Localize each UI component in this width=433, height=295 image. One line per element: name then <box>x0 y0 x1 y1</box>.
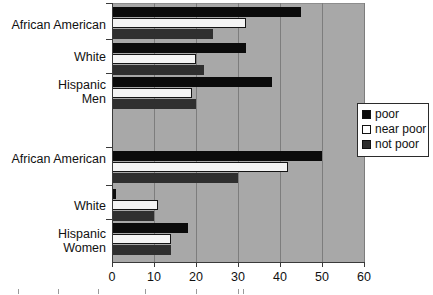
category-label-text: Hispanic <box>58 78 106 92</box>
scan-artifact <box>238 289 239 294</box>
bar-poor-african-american-men <box>112 7 301 17</box>
legend-item-near-poor: near poor <box>362 122 424 137</box>
x-axis-tick <box>238 262 239 267</box>
x-axis-tick-label: 40 <box>265 270 295 284</box>
x-axis-tick-label: 0 <box>97 270 127 284</box>
y-axis-line <box>112 3 113 262</box>
x-axis-tick <box>112 262 113 267</box>
bar-not-poor-white-men <box>112 65 204 75</box>
scan-artifact <box>18 289 19 294</box>
category-label-white-women: White <box>74 199 106 213</box>
category-label-text: White <box>74 50 106 64</box>
legend-label-poor: poor <box>375 108 399 121</box>
scan-artifact <box>98 289 99 294</box>
bar-near-poor-african-american-men <box>112 18 246 28</box>
category-label-african-american-men: African American <box>12 18 106 32</box>
category-label-text-line2: Men <box>58 92 106 106</box>
x-axis-tick-label: 10 <box>139 270 169 284</box>
bar-not-poor-hispanic-men <box>112 99 196 109</box>
category-label-column: African American White Hispanic Men Afri… <box>0 0 109 262</box>
legend-swatch-not-poor-icon <box>362 140 371 149</box>
gridline <box>196 3 197 262</box>
y-axis-tick <box>106 185 112 186</box>
x-axis-tick-label: 50 <box>307 270 337 284</box>
bar-not-poor-african-american-men <box>112 29 213 39</box>
category-label-text: African American <box>12 152 106 166</box>
x-axis-tick <box>196 262 197 267</box>
scan-artifact <box>243 289 244 294</box>
y-axis-tick <box>106 73 112 74</box>
x-axis-tick <box>154 262 155 267</box>
legend-item-poor: poor <box>362 107 424 122</box>
bar-near-poor-white-men <box>112 54 196 64</box>
bar-poor-white-men <box>112 43 246 53</box>
y-axis-tick <box>106 39 112 40</box>
bar-near-poor-african-american-women <box>112 162 288 172</box>
y-axis-tick <box>106 3 112 4</box>
bar-chart: African American White Hispanic Men Afri… <box>0 0 433 295</box>
bar-near-poor-hispanic-men <box>112 88 192 98</box>
gridline <box>280 3 281 262</box>
x-axis-tick <box>280 262 281 267</box>
x-axis-tick <box>364 262 365 267</box>
bar-not-poor-hispanic-women <box>112 245 171 255</box>
x-axis-tick-label: 20 <box>181 270 211 284</box>
category-label-text: White <box>74 199 106 213</box>
category-label-hispanic-women: Hispanic Women <box>58 227 106 255</box>
scan-artifact <box>196 289 197 294</box>
bar-not-poor-african-american-women <box>112 173 238 183</box>
x-axis-tick-label: 30 <box>223 270 253 284</box>
category-label-text: African American <box>12 18 106 32</box>
legend: poor near poor not poor <box>357 103 429 157</box>
bar-poor-hispanic-women <box>112 223 188 233</box>
category-label-hispanic-men: Hispanic Men <box>58 78 106 106</box>
bar-poor-hispanic-men <box>112 77 272 87</box>
y-axis-tick <box>106 219 112 220</box>
category-label-text: Hispanic <box>58 227 106 241</box>
legend-swatch-poor-icon <box>362 110 371 119</box>
x-axis-tick <box>322 262 323 267</box>
plot-area <box>112 3 365 262</box>
scan-artifact <box>58 289 59 294</box>
gridline <box>322 3 323 262</box>
scan-artifact <box>145 289 146 294</box>
category-label-white-men: White <box>74 50 106 64</box>
legend-label-near-poor: near poor <box>375 123 426 136</box>
bar-poor-african-american-women <box>112 151 322 161</box>
bar-not-poor-white-women <box>112 211 154 221</box>
category-label-text-line2: Women <box>58 241 106 255</box>
bar-near-poor-white-women <box>112 200 158 210</box>
y-axis-tick <box>106 147 112 148</box>
legend-item-not-poor: not poor <box>362 137 424 152</box>
bar-near-poor-hispanic-women <box>112 234 171 244</box>
gridline <box>238 3 239 262</box>
category-label-african-american-women: African American <box>12 152 106 166</box>
legend-label-not-poor: not poor <box>375 138 419 151</box>
x-axis-tick-label: 60 <box>349 270 379 284</box>
legend-swatch-near-poor-icon <box>362 125 371 134</box>
